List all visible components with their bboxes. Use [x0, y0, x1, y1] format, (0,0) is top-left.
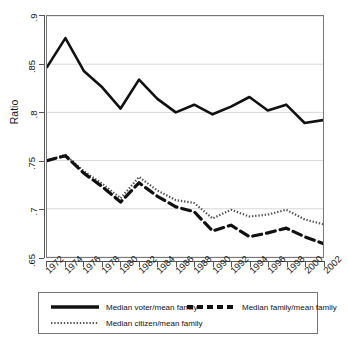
- legend-swatch-dotted: [51, 318, 99, 328]
- legend-label: Median citizen/mean family: [106, 319, 202, 328]
- y-tick-label-text: .7: [29, 208, 40, 216]
- y-tick-label: .7: [0, 201, 38, 219]
- y-tick-mark: [39, 15, 44, 16]
- y-tick-label: .75: [0, 153, 38, 171]
- y-tick-mark: [39, 258, 44, 259]
- chart-legend: Median voter/mean familyMedian family/me…: [38, 292, 318, 334]
- legend-label: Median voter/mean family: [106, 303, 198, 312]
- chart-figure: Ratio .65.7.75.8.85.9 197219741976197819…: [0, 0, 348, 348]
- y-tick-mark: [39, 64, 44, 65]
- y-tick-label-text: .8: [29, 111, 40, 119]
- series-line: [47, 156, 323, 244]
- y-tick-label: .85: [0, 56, 38, 74]
- y-tick-label-text: .75: [26, 157, 37, 170]
- series-line: [47, 155, 323, 224]
- legend-item[interactable]: Median voter/mean family: [51, 300, 198, 314]
- y-tick-label: .9: [0, 7, 38, 25]
- y-tick-label-text: .65: [26, 254, 37, 267]
- x-tick-label: 2002: [321, 253, 344, 276]
- legend-swatch-dashed: [187, 302, 235, 312]
- legend-swatch-solid: [51, 302, 99, 312]
- y-axis-line: [44, 15, 45, 258]
- legend-item[interactable]: Median family/mean family: [187, 300, 337, 314]
- legend-item[interactable]: Median citizen/mean family: [51, 316, 202, 330]
- y-tick-label-text: .85: [26, 59, 37, 72]
- y-tick-mark: [39, 209, 44, 210]
- y-tick-label-text: .9: [29, 14, 40, 22]
- legend-label: Median family/mean family: [242, 303, 337, 312]
- plot-svg: [47, 16, 323, 257]
- y-tick-mark: [39, 112, 44, 113]
- y-tick-label: .8: [0, 104, 38, 122]
- series-line: [47, 38, 323, 123]
- y-tick-mark: [39, 161, 44, 162]
- y-tick-label: .65: [0, 250, 38, 268]
- plot-area: [46, 15, 324, 258]
